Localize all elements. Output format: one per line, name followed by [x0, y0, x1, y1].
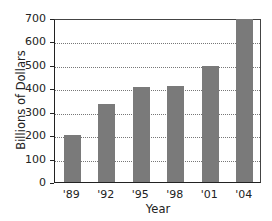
plot-area: [54, 19, 261, 183]
y-tick-mark: [50, 66, 54, 67]
bar: [202, 66, 219, 182]
x-tick-label: '04: [229, 188, 259, 201]
x-tick-label: '98: [160, 188, 190, 201]
y-tick-label: 700: [16, 13, 46, 24]
bar: [167, 86, 184, 182]
x-tick-label: '92: [91, 188, 121, 201]
gridline: [55, 67, 260, 68]
y-tick-mark: [50, 160, 54, 161]
x-tick-label: '89: [56, 188, 86, 201]
y-axis-label: Billions of Dollars: [14, 45, 28, 155]
x-axis-label: Year: [0, 202, 272, 216]
y-tick-mark: [50, 183, 54, 184]
gridline: [55, 43, 260, 44]
y-tick-mark: [50, 42, 54, 43]
gridline: [55, 161, 260, 162]
bar: [98, 104, 115, 182]
y-tick-label: 100: [16, 154, 46, 165]
bar: [64, 135, 81, 182]
gridline: [55, 114, 260, 115]
bar: [133, 87, 150, 182]
y-tick-mark: [50, 89, 54, 90]
y-tick-mark: [50, 19, 54, 20]
bar: [236, 19, 253, 182]
x-tick-label: '95: [125, 188, 155, 201]
x-tick-label: '01: [194, 188, 224, 201]
gridline: [55, 90, 260, 91]
y-tick-mark: [50, 113, 54, 114]
y-tick-label: 0: [16, 177, 46, 188]
gridline: [55, 137, 260, 138]
y-tick-mark: [50, 136, 54, 137]
